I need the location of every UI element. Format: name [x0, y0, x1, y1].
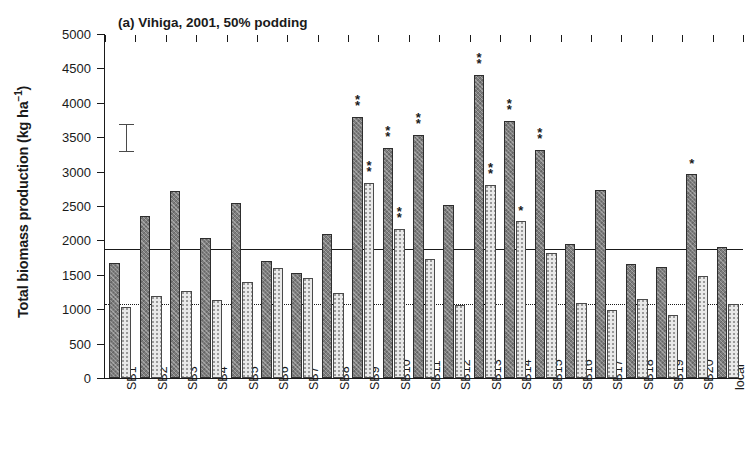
- bar-SB12-series-1: [443, 205, 454, 378]
- x-axis-tick: [713, 35, 714, 42]
- bar-SB20-series-2: [698, 276, 709, 379]
- y-axis-title-close: ): [15, 86, 31, 91]
- significance-mark-SB10-series-1: **: [385, 128, 390, 140]
- y-axis-tick-label: 1500: [39, 267, 91, 282]
- lsd-stem: [126, 124, 127, 152]
- bar-SB18-series-1: [626, 264, 637, 378]
- x-axis-tick: [166, 35, 167, 42]
- y-axis-tick-label: 4000: [39, 95, 91, 110]
- y-axis-tick: [97, 240, 105, 241]
- significance-mark-SB10-series-2: **: [397, 209, 402, 221]
- y-axis-tick: [97, 68, 105, 69]
- bar-SB10-series-1: [383, 148, 394, 378]
- y-axis-tick-label: 5000: [39, 27, 91, 42]
- y-axis-tick: [97, 103, 105, 104]
- x-axis-tick: [439, 35, 440, 42]
- bar-SB16-series-2: [576, 303, 587, 378]
- y-axis-tick: [97, 378, 105, 379]
- y-axis-tick: [97, 344, 105, 345]
- x-axis-tick: [378, 35, 379, 42]
- bar-SB13-series-1: [474, 75, 485, 378]
- bar-SB15-series-2: [546, 253, 557, 378]
- lsd-cap-bottom: [119, 151, 134, 152]
- significance-mark-SB13-series-2: **: [488, 165, 493, 177]
- plot-area: 5000450040003500300025002000150010005000…: [104, 34, 743, 379]
- x-axis-tick: [682, 35, 683, 42]
- bar-local-series-2: [728, 304, 739, 378]
- y-axis-title-exponent: −1: [13, 90, 24, 101]
- bar-SB16-series-1: [565, 244, 576, 378]
- significance-mark-SB9-series-1: **: [355, 97, 360, 109]
- bar-SB9-series-1: [352, 117, 363, 378]
- bar-SB17-series-2: [607, 310, 618, 378]
- bar-SB4-series-1: [200, 238, 211, 378]
- bar-SB8-series-1: [322, 234, 333, 378]
- bar-SB9-series-2: [364, 183, 375, 378]
- significance-mark-SB14-series-2: *: [518, 208, 523, 214]
- bar-SB7-series-1: [291, 273, 302, 378]
- y-axis-tick: [97, 206, 105, 207]
- y-axis-tick: [97, 309, 105, 310]
- y-axis-tick: [97, 34, 105, 35]
- bar-SB2-series-1: [140, 216, 151, 378]
- bar-SB11-series-2: [425, 259, 436, 378]
- x-axis-tick: [591, 35, 592, 42]
- bar-SB11-series-1: [413, 135, 424, 378]
- bar-SB15-series-1: [535, 150, 546, 378]
- bar-SB5-series-2: [242, 282, 253, 378]
- bar-SB1-series-1: [109, 263, 120, 378]
- bar-SB8-series-2: [333, 293, 344, 378]
- x-axis-tick: [530, 35, 531, 42]
- y-axis-title-text: Total biomass production (kg ha: [15, 101, 31, 318]
- x-axis-tick: [318, 35, 319, 42]
- y-axis-tick: [97, 275, 105, 276]
- bar-SB6-series-2: [273, 268, 284, 378]
- y-axis-tick-label: 2500: [39, 199, 91, 214]
- bar-SB1-series-2: [121, 307, 132, 378]
- x-axis-tick: [105, 35, 106, 42]
- y-axis-tick-label: 3500: [39, 130, 91, 145]
- x-axis-tick: [500, 35, 501, 42]
- bar-SB19-series-2: [668, 315, 679, 378]
- y-axis-tick-label: 3000: [39, 164, 91, 179]
- figure-panel-a: Total biomass production (kg ha−1) (a) V…: [0, 0, 750, 457]
- plot-title: (a) Vihiga, 2001, 50% podding: [118, 15, 308, 30]
- y-axis-tick: [97, 172, 105, 173]
- bar-SB7-series-2: [303, 278, 314, 378]
- significance-mark-SB11-series-1: **: [416, 115, 421, 127]
- bar-local-series-1: [717, 247, 728, 378]
- bar-SB20-series-1: [686, 174, 697, 378]
- x-axis-tick: [196, 35, 197, 42]
- significance-mark-SB13-series-1: **: [476, 55, 481, 67]
- significance-mark-SB9-series-2: **: [366, 163, 371, 175]
- x-axis-tick: [257, 35, 258, 42]
- bar-SB6-series-1: [261, 261, 272, 378]
- bar-SB3-series-2: [181, 291, 192, 378]
- bar-SB18-series-2: [637, 299, 648, 378]
- bar-SB14-series-1: [504, 121, 515, 378]
- x-axis-tick: [409, 35, 410, 42]
- y-axis-tick-label: 4500: [39, 61, 91, 76]
- x-axis-tick: [348, 35, 349, 42]
- significance-mark-SB20-series-1: *: [689, 161, 694, 167]
- x-axis-tick: [470, 35, 471, 42]
- significance-mark-SB14-series-1: **: [507, 101, 512, 113]
- y-axis-tick-label: 500: [39, 336, 91, 351]
- bar-SB14-series-2: [516, 221, 527, 378]
- x-axis-tick: [743, 35, 744, 42]
- bar-SB13-series-2: [485, 185, 496, 378]
- bar-SB19-series-1: [656, 267, 667, 378]
- y-axis-tick-label: 0: [39, 371, 91, 386]
- x-axis-tick: [621, 35, 622, 42]
- y-axis-tick-label: 2000: [39, 233, 91, 248]
- bar-SB2-series-2: [151, 296, 162, 378]
- x-axis-tick: [135, 35, 136, 42]
- bar-SB5-series-1: [231, 203, 242, 378]
- y-axis-title: Total biomass production (kg ha−1): [13, 32, 31, 372]
- y-axis-tick: [97, 137, 105, 138]
- lsd-error-bar: [119, 124, 134, 152]
- x-axis-tick: [287, 35, 288, 42]
- y-axis-tick-label: 1000: [39, 302, 91, 317]
- bar-SB17-series-1: [595, 190, 606, 379]
- x-axis-tick: [652, 35, 653, 42]
